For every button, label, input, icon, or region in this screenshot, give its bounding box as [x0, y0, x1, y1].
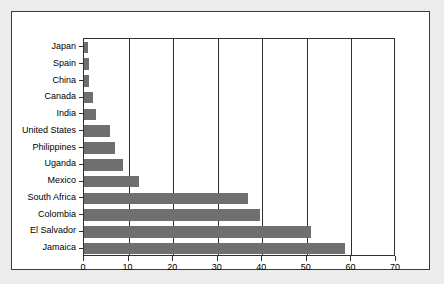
figure: JapanSpainChinaCanadaIndiaUnited StatesP…	[0, 0, 444, 284]
bar-row	[84, 156, 394, 173]
x-tick-60	[350, 256, 351, 261]
x-tick-30	[217, 256, 218, 261]
x-tick-label-60: 60	[345, 262, 355, 272]
bar-series	[84, 39, 394, 255]
y-tick	[79, 80, 83, 81]
bar-row	[84, 190, 394, 207]
bar-row	[84, 123, 394, 140]
y-tick	[79, 97, 83, 98]
x-tick-40	[261, 256, 262, 261]
bar-uganda	[84, 159, 123, 171]
bar-row	[84, 39, 394, 56]
y-tick	[79, 46, 83, 47]
chart-panel: JapanSpainChinaCanadaIndiaUnited StatesP…	[11, 11, 430, 270]
bar-row	[84, 73, 394, 90]
y-label-jamaica: Jamaica	[42, 239, 76, 256]
y-tick	[79, 63, 83, 64]
x-axis: 010203040506070	[83, 256, 395, 278]
bar-jamaica	[84, 243, 345, 255]
y-label-philippines: Philippines	[32, 139, 76, 156]
x-tick-label-70: 70	[390, 262, 400, 272]
y-label-colombia: Colombia	[38, 206, 76, 223]
y-tick	[79, 164, 83, 165]
x-tick-label-50: 50	[301, 262, 311, 272]
bar-canada	[84, 92, 93, 104]
bar-united-states	[84, 125, 110, 137]
y-tick	[79, 197, 83, 198]
y-tick	[79, 113, 83, 114]
bar-japan	[84, 42, 88, 54]
y-tick	[79, 147, 83, 148]
y-tick	[79, 181, 83, 182]
x-tick-0	[83, 256, 84, 261]
y-label-china: China	[52, 72, 76, 89]
bar-row	[84, 223, 394, 240]
y-label-canada: Canada	[44, 88, 76, 105]
y-label-el-salvador: El Salvador	[30, 222, 76, 239]
bar-mexico	[84, 176, 139, 188]
x-tick-20	[172, 256, 173, 261]
bar-spain	[84, 58, 89, 70]
x-tick-label-40: 40	[256, 262, 266, 272]
bar-colombia	[84, 209, 260, 221]
y-tick	[79, 231, 83, 232]
plot-area	[83, 38, 395, 256]
y-label-united-states: United States	[22, 122, 76, 139]
bar-china	[84, 75, 89, 87]
y-label-south-africa: South Africa	[27, 189, 76, 206]
y-axis-labels: JapanSpainChinaCanadaIndiaUnited StatesP…	[12, 38, 83, 256]
x-tick-10	[128, 256, 129, 261]
bar-row	[84, 140, 394, 157]
x-tick-70	[395, 256, 396, 261]
y-label-spain: Spain	[53, 55, 76, 72]
bar-row	[84, 207, 394, 224]
y-label-mexico: Mexico	[47, 172, 76, 189]
y-label-japan: Japan	[51, 38, 76, 55]
bar-row	[84, 56, 394, 73]
bar-south-africa	[84, 193, 248, 205]
x-tick-label-0: 0	[80, 262, 85, 272]
y-tick	[79, 248, 83, 249]
bar-row	[84, 240, 394, 257]
y-tick	[79, 214, 83, 215]
x-tick-label-10: 10	[123, 262, 133, 272]
bar-row	[84, 173, 394, 190]
bar-row	[84, 89, 394, 106]
y-tick	[79, 130, 83, 131]
x-tick-label-20: 20	[167, 262, 177, 272]
x-tick-50	[306, 256, 307, 261]
y-label-india: India	[56, 105, 76, 122]
bar-el-salvador	[84, 226, 311, 238]
x-tick-label-30: 30	[212, 262, 222, 272]
bar-row	[84, 106, 394, 123]
bar-india	[84, 109, 96, 121]
y-label-uganda: Uganda	[44, 155, 76, 172]
bar-philippines	[84, 142, 115, 154]
